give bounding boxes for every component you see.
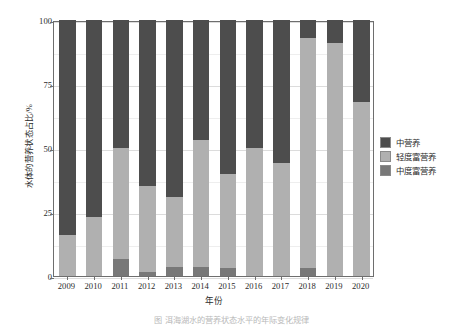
x-axis-tick-mark	[308, 276, 309, 280]
bar-segment-2018-轻度富营养[interactable]	[300, 38, 317, 268]
bar-segment-2014-中营养[interactable]	[193, 20, 210, 140]
legend-label: 中营养	[396, 136, 420, 148]
x-axis-tick-mark	[174, 276, 175, 280]
bar-2010[interactable]	[86, 20, 103, 276]
bar-segment-2011-轻度富营养[interactable]	[113, 148, 130, 259]
x-axis-tick-mark	[335, 276, 336, 280]
y-tick-label-50: 50	[30, 144, 52, 154]
legend-item-1[interactable]: 中营养	[380, 135, 460, 149]
bar-segment-2011-中度富营养[interactable]	[113, 259, 130, 276]
bar-2019[interactable]	[327, 20, 344, 276]
legend-swatch-icon	[380, 151, 391, 162]
bar-2015[interactable]	[220, 20, 237, 276]
bar-segment-2015-轻度富营养[interactable]	[220, 174, 237, 269]
bar-segment-2012-轻度富营养[interactable]	[139, 186, 156, 272]
bar-segment-2010-中营养[interactable]	[86, 20, 103, 217]
y-axis-tick-mark	[50, 150, 54, 151]
legend-item-3[interactable]: 中度富营养	[380, 163, 460, 177]
y-tick-label-75: 75	[30, 80, 52, 90]
bar-segment-2017-中营养[interactable]	[273, 20, 290, 163]
bar-2016[interactable]	[246, 20, 263, 276]
legend-item-2[interactable]: 轻度富营养	[380, 149, 460, 163]
plot-area	[53, 21, 374, 277]
chart-figure: 水体的营养状态占比/% 0255075100 20092010201120122…	[0, 0, 463, 330]
x-axis-tick-mark	[201, 276, 202, 280]
x-axis-tick-mark	[148, 276, 149, 280]
y-axis-tick-mark	[50, 22, 54, 23]
bar-segment-2013-中营养[interactable]	[166, 20, 183, 197]
bar-segment-2014-中度富营养[interactable]	[193, 267, 210, 276]
x-axis-title: 年份	[53, 294, 374, 306]
x-tick-label-2020: 2020	[341, 281, 381, 291]
bar-segment-2012-中营养[interactable]	[139, 20, 156, 186]
bar-segment-2009-中营养[interactable]	[59, 20, 76, 235]
bar-segment-2013-轻度富营养[interactable]	[166, 197, 183, 267]
bar-segment-2020-轻度富营养[interactable]	[353, 102, 370, 276]
y-axis-tick-mark	[50, 86, 54, 87]
bar-segment-2013-中度富营养[interactable]	[166, 267, 183, 276]
bar-2014[interactable]	[193, 20, 210, 276]
grid-line-horizontal	[54, 278, 373, 279]
legend-label: 轻度富营养	[396, 150, 436, 162]
bar-segment-2015-中营养[interactable]	[220, 20, 237, 174]
bar-2011[interactable]	[113, 20, 130, 276]
bar-2013[interactable]	[166, 20, 183, 276]
legend-label: 中度富营养	[396, 164, 436, 176]
bar-segment-2019-中营养[interactable]	[327, 20, 344, 43]
x-axis-tick-labels: 2009201020112012201320142015201620172018…	[53, 281, 374, 295]
y-tick-label-25: 25	[30, 208, 52, 218]
x-axis-tick-mark	[281, 276, 282, 280]
bar-2017[interactable]	[273, 20, 290, 276]
bar-segment-2016-中营养[interactable]	[246, 20, 263, 148]
y-tick-label-100: 100	[30, 16, 52, 26]
bar-segment-2010-轻度富营养[interactable]	[86, 217, 103, 276]
bar-segment-2018-中营养[interactable]	[300, 20, 317, 38]
y-axis-tick-mark	[50, 214, 54, 215]
bar-segment-2011-中营养[interactable]	[113, 20, 130, 148]
bar-segment-2018-中度富营养[interactable]	[300, 268, 317, 276]
figure-caption: 图 洱海湖水的营养状态水平的年际变化规律	[0, 313, 463, 325]
y-axis-tick-mark	[50, 278, 54, 279]
bar-segment-2015-中度富营养[interactable]	[220, 268, 237, 276]
bar-segment-2020-中营养[interactable]	[353, 20, 370, 102]
chart-legend: 中营养轻度富营养中度富营养	[380, 135, 460, 177]
x-axis-tick-mark	[121, 276, 122, 280]
bar-segment-2009-轻度富营养[interactable]	[59, 235, 76, 276]
x-axis-tick-mark	[255, 276, 256, 280]
legend-swatch-icon	[380, 137, 391, 148]
bar-2018[interactable]	[300, 20, 317, 276]
bar-segment-2014-轻度富营养[interactable]	[193, 140, 210, 267]
bar-segment-2016-轻度富营养[interactable]	[246, 148, 263, 276]
x-axis-tick-mark	[228, 276, 229, 280]
legend-swatch-icon	[380, 165, 391, 176]
bar-2012[interactable]	[139, 20, 156, 276]
plot-inner	[54, 22, 373, 276]
x-axis-tick-mark	[94, 276, 95, 280]
bar-segment-2017-轻度富营养[interactable]	[273, 163, 290, 276]
bar-2009[interactable]	[59, 20, 76, 276]
bar-2020[interactable]	[353, 20, 370, 276]
bar-segment-2019-轻度富营养[interactable]	[327, 43, 344, 276]
x-axis-tick-mark	[67, 276, 68, 280]
x-axis-tick-mark	[362, 276, 363, 280]
